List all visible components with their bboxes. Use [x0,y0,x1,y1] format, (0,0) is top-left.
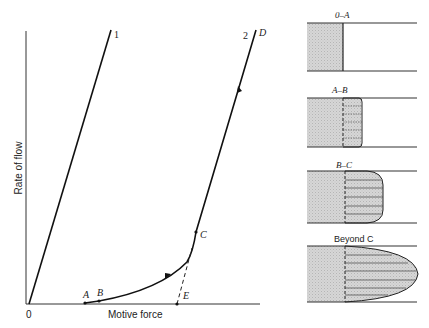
point-b-label: B [97,287,103,298]
x-axis-label: Motive force [108,309,163,320]
line-2-bingham-curve [85,30,256,303]
graph: Rate of flow Motive force 0 1 A B C E 2 … [13,27,267,320]
panel-0-a: 0–A [307,10,417,71]
line-1-newtonian [29,30,111,304]
point-a [83,301,86,304]
panel-title: B–C [336,160,353,170]
point-e [175,302,178,305]
panel-title: Beyond C [334,234,374,244]
point-c-label: C [200,229,207,240]
origin-label: 0 [26,309,32,320]
panel-title: A–B [331,85,348,95]
line-1-label: 1 [114,29,119,40]
point-d-label: D [258,27,267,38]
panel-b-c: B–C [307,160,417,223]
point-c [194,230,197,233]
line-2-label: 2 [243,30,248,41]
panel-a-b: A–B [307,85,417,147]
point-a-label: A [82,289,90,300]
point-b [97,299,100,302]
y-axis-label: Rate of flow [13,141,24,195]
flow-diagram: Rate of flow Motive force 0 1 A B C E 2 … [0,0,429,328]
panel-beyond-c: Beyond C [307,234,418,302]
panel-title: 0–A [335,10,350,20]
point-e-label: E [182,290,189,301]
